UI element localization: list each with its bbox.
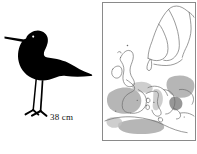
- europe-distribution-map: [103, 3, 195, 140]
- bird-size-label: 38 cm: [50, 112, 73, 123]
- range-shading-group: [106, 76, 194, 134]
- distribution-map-panel: [99, 0, 197, 154]
- bird-illustration-panel: 38 cm: [0, 0, 99, 154]
- coastline-outlines-group: [105, 6, 194, 133]
- wader-bird-silhouette-icon: [0, 22, 95, 122]
- map-frame-border: [102, 2, 196, 141]
- field-guide-plate: 38 cm: [0, 0, 197, 154]
